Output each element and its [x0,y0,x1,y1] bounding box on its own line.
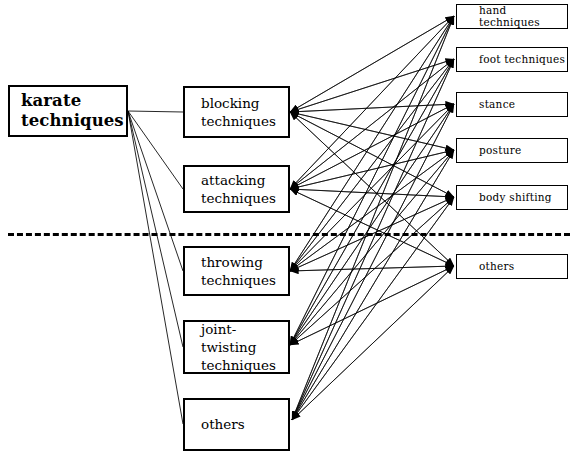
node-label: others [457,261,567,273]
node-label: posture [457,145,567,157]
node-label: karate techniques [10,91,126,131]
node-stance[interactable]: stance [456,92,568,117]
node-karate-techniques[interactable]: karate techniques [8,85,128,137]
node-joint-twisting-techniques[interactable]: joint-twisting techniques [183,320,290,374]
node-attacking-techniques[interactable]: attacking techniques [183,165,290,213]
node-body-shifting[interactable]: body shifting [456,185,568,210]
node-label: stance [457,99,567,111]
node-label: throwing techniques [185,253,288,289]
node-label: others [185,415,288,433]
node-label: foot techniques [457,54,567,66]
node-hand-techniques[interactable]: hand techniques [456,4,568,29]
node-others-middle[interactable]: others [183,398,290,451]
node-label: hand techniques [457,5,567,28]
node-others-right[interactable]: others [456,254,568,279]
root-edges [128,111,183,424]
mesh-edges [290,16,454,420]
node-foot-techniques[interactable]: foot techniques [456,47,568,72]
dashed-separator-line [8,233,570,236]
node-posture[interactable]: posture [456,138,568,163]
node-label: body shifting [457,192,567,204]
node-label: attacking techniques [185,171,288,207]
diagram-canvas: karate techniques blocking techniques at… [0,0,577,470]
node-blocking-techniques[interactable]: blocking techniques [183,86,290,138]
node-throwing-techniques[interactable]: throwing techniques [183,246,290,296]
node-label: blocking techniques [185,94,288,130]
node-label: joint-twisting techniques [185,320,288,374]
